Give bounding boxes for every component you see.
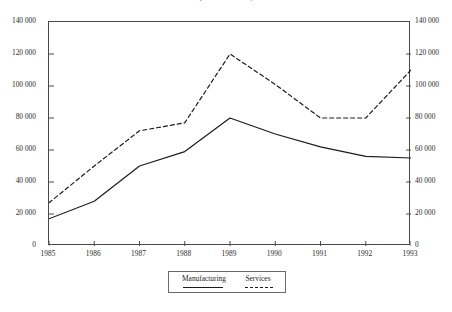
x-tick-label: 1992: [345, 249, 385, 258]
plot-area: [48, 21, 410, 245]
series-line-manufacturing: [49, 118, 411, 219]
series-line-services: [49, 54, 411, 203]
y-tick-label: 40 000: [16, 177, 36, 185]
y-tick-label: 60 000: [415, 145, 435, 153]
legend-label-manufacturing: Manufacturing: [173, 274, 235, 284]
x-tick-label: 1988: [164, 249, 204, 258]
x-tick-label: 1993: [390, 249, 430, 258]
y-tick-label: 120 000: [12, 49, 36, 57]
y-tick-label: 0: [415, 241, 419, 249]
legend-label-services: Services: [235, 274, 281, 284]
axis-ticks: [49, 54, 411, 246]
chart-figure: (ECU million) 020 00040 00060 00080 0001…: [0, 0, 452, 312]
x-tick-label: 1989: [209, 249, 249, 258]
y-axis-left: 020 00040 00060 00080 000100 000120 0001…: [0, 0, 44, 312]
y-tick-label: 40 000: [415, 177, 435, 185]
x-tick-label: 1990: [254, 249, 294, 258]
x-tick-label: 1987: [119, 249, 159, 258]
legend-swatch-manufacturing-solid-line: [183, 287, 223, 290]
x-tick-label: 1985: [28, 249, 68, 258]
y-tick-label: 0: [32, 241, 36, 249]
y-tick-label: 100 000: [12, 81, 36, 89]
y-tick-label: 80 000: [16, 113, 36, 121]
plot-svg: [49, 22, 411, 246]
y-axis-right: 020 00040 00060 00080 000100 000120 0001…: [415, 0, 452, 312]
y-tick-label: 140 000: [12, 17, 36, 25]
y-tick-label: 120 000: [415, 49, 439, 57]
y-tick-label: 20 000: [16, 209, 36, 217]
y-tick-label: 80 000: [415, 113, 435, 121]
chart-title: (ECU million): [0, 0, 452, 2]
y-tick-label: 20 000: [415, 209, 435, 217]
chart-legend: Manufacturing Services: [168, 271, 286, 293]
x-tick-label: 1986: [73, 249, 113, 258]
data-series-layer: [49, 54, 411, 219]
y-tick-label: 140 000: [415, 17, 439, 25]
x-tick-label: 1991: [300, 249, 340, 258]
legend-swatch-services-dashed-line: [245, 287, 273, 290]
x-axis-labels: 198519861987198819891990199119921993: [0, 249, 452, 263]
legend-labels: Manufacturing Services: [169, 274, 285, 285]
y-tick-label: 100 000: [415, 81, 439, 89]
y-tick-label: 60 000: [16, 145, 36, 153]
